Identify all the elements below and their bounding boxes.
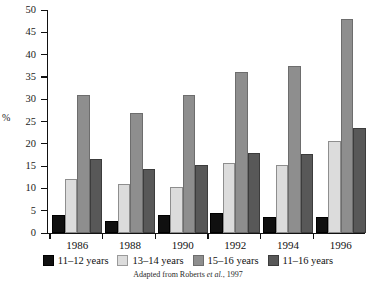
bar-1990-series-2 [170, 187, 183, 233]
bar-1990-series-1 [158, 215, 171, 233]
bar-1986-series-2 [65, 179, 78, 233]
y-tick-15 [41, 166, 48, 167]
bar-1988-series-3 [130, 113, 143, 233]
y-tick-label-40: 40 [6, 50, 36, 60]
bar-1994-series-4 [301, 154, 314, 233]
bar-1992-series-3 [235, 72, 248, 233]
legend-swatch-11-12 [43, 255, 54, 266]
y-tick-20 [41, 143, 48, 144]
bar-1992-series-4 [248, 153, 261, 233]
bar-1996-series-4 [353, 128, 366, 233]
legend-swatch-13-14 [117, 255, 128, 266]
caption-suffix: , 1997 [223, 270, 243, 279]
y-tick-label-10: 10 [6, 183, 36, 193]
x-axis-line [47, 233, 365, 234]
legend-label-3: 15–16 years [208, 255, 259, 266]
y-tick-30 [41, 99, 48, 100]
y-tick-10 [41, 188, 48, 189]
y-tick-label-30: 30 [6, 94, 36, 104]
x-axis-label-1992: 1992 [207, 239, 263, 251]
legend-swatch-11-16 [268, 255, 279, 266]
bar-1996-series-3 [341, 19, 354, 233]
bar-1992-series-2 [223, 163, 236, 233]
legend-item-1[interactable]: 11–12 years [43, 255, 109, 266]
bar-1986-series-1 [52, 215, 65, 233]
chart-legend: 11–12 years13–14 years15–16 years11–16 y… [0, 255, 376, 266]
y-tick-label-0: 0 [6, 228, 36, 238]
chart-caption: Adapted from Roberts et al., 1997 [0, 270, 376, 279]
y-tick-40 [41, 54, 48, 55]
bar-group-1994 [263, 8, 313, 233]
caption-prefix: Adapted from Roberts [133, 270, 207, 279]
legend-item-3[interactable]: 15–16 years [193, 255, 259, 266]
legend-label-2: 13–14 years [132, 255, 183, 266]
bar-1990-series-3 [183, 95, 196, 233]
bar-1996-series-2 [328, 141, 341, 233]
bar-1988-series-2 [118, 184, 131, 233]
bar-1986-series-4 [90, 159, 103, 233]
bar-chart-figure: % 05101520253035404550 19861988199019921… [0, 0, 376, 284]
x-axis-label-1990: 1990 [155, 239, 211, 251]
y-tick-45 [41, 32, 48, 33]
bar-1992-series-1 [210, 213, 223, 233]
bar-1986-series-3 [77, 95, 90, 233]
y-tick-label-15: 15 [6, 161, 36, 171]
legend-item-2[interactable]: 13–14 years [117, 255, 183, 266]
y-tick-label-35: 35 [6, 72, 36, 82]
bar-1994-series-1 [263, 217, 276, 233]
x-axis-label-1994: 1994 [260, 239, 316, 251]
bar-1994-series-2 [276, 165, 289, 233]
bar-group-1996 [316, 8, 366, 233]
legend-label-1: 11–12 years [58, 255, 109, 266]
legend-item-4[interactable]: 11–16 years [268, 255, 334, 266]
legend-label-4: 11–16 years [283, 255, 334, 266]
y-tick-label-5: 5 [6, 206, 36, 216]
legend-swatch-15-16 [193, 255, 204, 266]
x-axis-label-1986: 1986 [49, 239, 105, 251]
y-tick-label-45: 45 [6, 27, 36, 37]
bar-group-1986 [52, 8, 102, 233]
y-tick-25 [41, 121, 48, 122]
caption-italic: et al. [207, 270, 223, 279]
bar-1988-series-4 [143, 169, 156, 233]
bar-group-1992 [210, 8, 260, 233]
y-tick-0 [41, 233, 48, 234]
x-axis-label-1988: 1988 [102, 239, 158, 251]
bar-group-1988 [105, 8, 155, 233]
y-tick-label-50: 50 [6, 5, 36, 15]
bar-1990-series-4 [195, 165, 208, 233]
y-tick-label-20: 20 [6, 139, 36, 149]
y-tick-50 [41, 10, 48, 11]
bar-group-1990 [158, 8, 208, 233]
y-tick-35 [41, 76, 48, 77]
y-tick-5 [41, 210, 48, 211]
x-axis-label-1996: 1996 [313, 239, 369, 251]
bar-1996-series-1 [316, 217, 329, 233]
bar-1988-series-1 [105, 221, 118, 233]
y-tick-label-25: 25 [6, 117, 36, 127]
bar-1994-series-3 [288, 66, 301, 233]
